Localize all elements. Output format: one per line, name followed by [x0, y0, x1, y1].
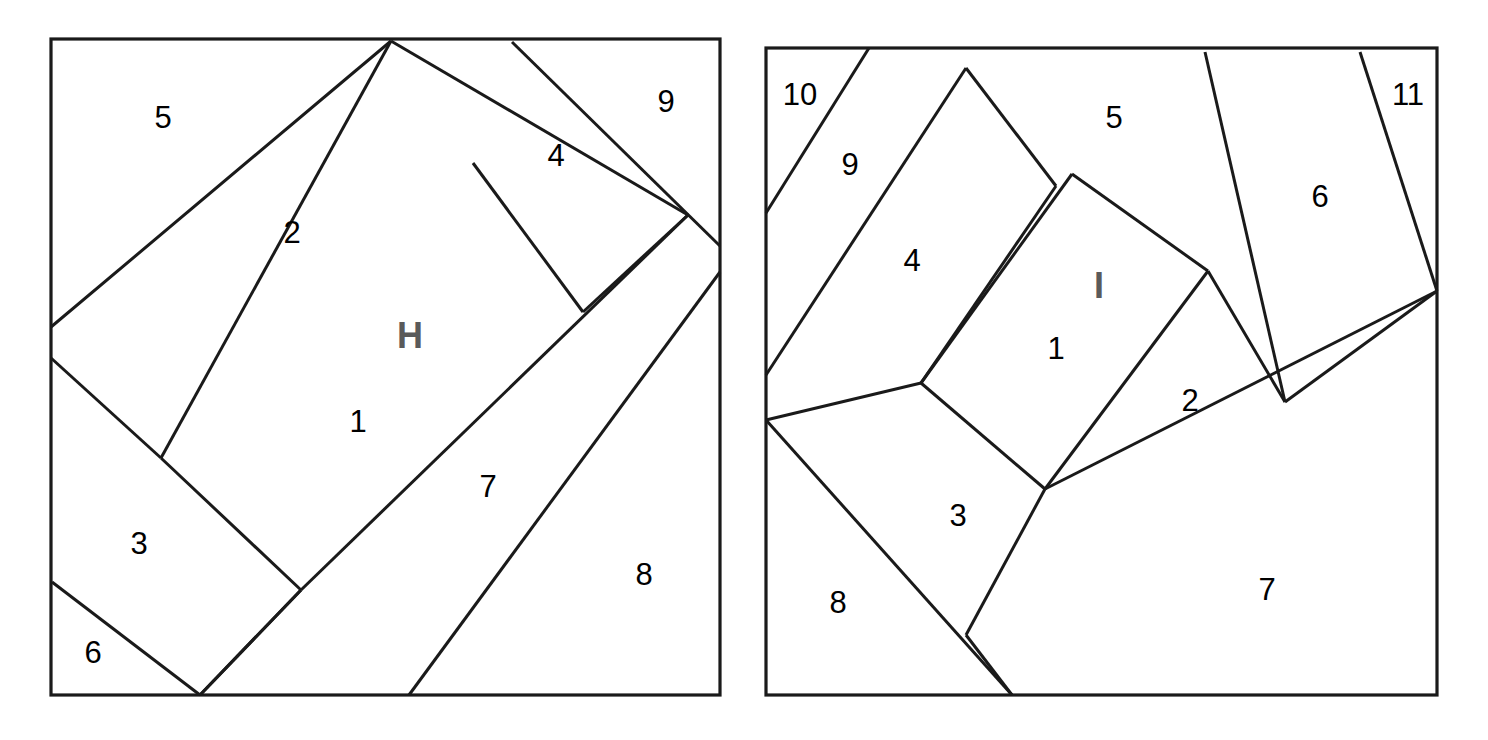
- figure-i-piece-label-3: 3: [949, 498, 966, 533]
- figure-h-frame: [51, 39, 720, 695]
- figure-h-piece-label-3: 3: [130, 526, 147, 561]
- figure-h-piece-label-5: 5: [154, 100, 171, 135]
- figure-i-piece-label-7: 7: [1258, 572, 1275, 607]
- figure-h-piece-label-1: 1: [349, 404, 366, 439]
- figure-i-piece-label-2: 2: [1181, 383, 1198, 418]
- figure-i-piece-label-1: 1: [1047, 331, 1064, 366]
- figure-h-piece-label-7: 7: [479, 469, 496, 504]
- figure-i-letter: I: [1094, 265, 1104, 306]
- figure-i-frame: [766, 48, 1437, 695]
- figure-h-piece-label-8: 8: [635, 557, 652, 592]
- figure-i-piece-label-11: 11: [1392, 77, 1424, 112]
- figure-i-piece-label-9: 9: [841, 147, 858, 182]
- figure-i-piece-label-8: 8: [829, 585, 846, 620]
- figure-h: 123456789H: [51, 39, 720, 695]
- dissection-diagram-canvas: 123456789H 1234567891011I: [0, 0, 1488, 740]
- figure-i-piece-label-4: 4: [903, 243, 920, 278]
- puzzle-figure-page: 123456789H 1234567891011I: [0, 0, 1488, 740]
- figure-h-piece-label-4: 4: [547, 138, 564, 173]
- figure-h-piece-label-9: 9: [657, 84, 674, 119]
- figure-h-piece-label-2: 2: [283, 215, 300, 250]
- figure-i-piece-label-6: 6: [1311, 179, 1328, 214]
- figure-h-piece-label-6: 6: [84, 635, 101, 670]
- figure-i: 1234567891011I: [766, 48, 1437, 695]
- figure-h-letter: H: [397, 315, 423, 356]
- figure-i-piece-label-10: 10: [783, 77, 817, 112]
- figure-i-piece-label-5: 5: [1105, 100, 1122, 135]
